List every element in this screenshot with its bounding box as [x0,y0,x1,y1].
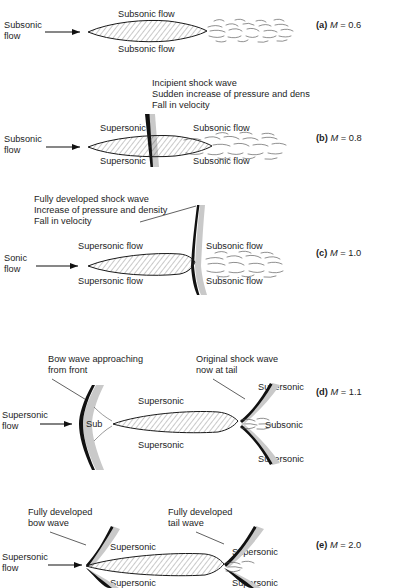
panel-a-upper-label: Subsonic flow [118,9,175,19]
panel-d-annotation-left-line2: from front [48,365,88,375]
panel-b-annotation-2: Sudden increase of pressure and density [152,89,310,99]
panel-d-annotation-right-line1: Original shock wave [196,354,278,364]
panel-d-mid-right-label: Subsonic [265,420,303,430]
panel-e-caption-value: = 2.0 [340,540,361,550]
panel-e-leader-left [50,532,86,545]
panel-c-aerofoil [88,254,195,276]
panel-e-lower-mid-label: Supersonic [110,578,156,588]
panel-a-inflow-line1: Subsonic [4,20,42,30]
panel-d-upper-right-label: Supersonic [258,382,304,392]
panel-b-annotation-1: Incipient shock wave [152,78,237,88]
panel-c-caption: (c) M = 1.0 [316,248,361,258]
panel-d-upper-mid-label: Supersonic [138,396,184,406]
panel-c-inflow-line2: flow [4,264,21,274]
panel-a-aerofoil [88,20,207,41]
panel-b-inflow-line2: flow [4,145,21,155]
panel-a-inflow-line2: flow [4,31,21,41]
panel-e-caption: (e) M = 2.0 [316,540,361,550]
panel-b-inflow-arrow [46,144,80,150]
panel-d-leader-right [213,379,245,399]
panel-a: Subsonic flow Subsonic flow Subsonic flo… [0,0,310,62]
shock-wave-development-figure: Subsonic flow Subsonic flow Subsonic flo… [0,0,397,588]
panel-c-annotation-3: Fall in velocity [34,216,92,226]
panel-b-annotation-3: Fall in velocity [152,100,210,110]
panel-b-caption: (b) M = 0.8 [316,133,362,143]
panel-d-inflow-arrow [40,421,72,427]
panel-d-lower-mid-label: Supersonic [138,440,184,450]
panel-e-upper-mid-label: Supersonic [110,542,156,552]
panel-c-upper-left-label: Supersonic flow [78,241,143,251]
panel-e-annotation-left-line1: Fully developed [28,507,92,517]
panel-e-inflow-line1: Supersonic [2,552,48,562]
panel-a-caption: (a) M = 0.6 [316,20,361,30]
panel-d-aerofoil [113,412,238,433]
panel-b-caption-symbol: M [330,133,338,143]
panel-a-caption-letter: (a) [316,20,327,30]
panel-a-inflow-arrow [45,29,80,35]
panel-a-wake [208,19,293,42]
panel-d-nose-pocket-label: Sub [86,419,102,429]
panel-e-annotation-left-line2: bow wave [28,518,69,528]
panel-c-caption-letter: (c) [316,248,327,258]
panel-c-annotation-2: Increase of pressure and density [34,205,168,215]
panel-c-fully-developed-shock-wave [191,205,207,295]
panel-e-annotation-right-line2: tail wave [168,518,204,528]
panel-b: Incipient shock wave Sudden increase of … [0,72,310,167]
panel-e-aerofoil [86,554,224,576]
panel-e-annotation-right-line1: Fully developed [168,507,232,517]
panel-d-caption-letter: (d) [316,387,328,397]
panel-c-inflow-line1: Sonic [4,253,27,263]
panel-c: Fully developed shock wave Increase of p… [0,185,310,295]
panel-d-caption-value: = 1.1 [341,387,362,397]
panel-b-inflow-line1: Subsonic [4,134,42,144]
panel-e-inflow-arrow [48,562,82,568]
panel-c-upper-right-label: Subsonic flow [206,241,263,251]
panel-c-caption-value: = 1.0 [340,248,361,258]
panel-b-lower-left-label: Supersonic [100,156,146,166]
panel-d-inflow-line2: flow [2,421,19,431]
panel-d: Bow wave approaching from front Original… [0,335,310,470]
panel-e-leader-right [196,532,224,544]
panel-e-caption-letter: (e) [316,540,327,550]
panel-e-inflow-line2: flow [2,563,19,573]
panel-a-lower-label: Subsonic flow [118,44,175,54]
panel-d-caption-symbol: M [330,387,338,397]
panel-d-annotation-right-line2: now at tail [196,365,237,375]
panel-b-lower-right-label: Subsonic flow [193,156,250,166]
panel-c-lower-right-label: Subsonic flow [206,276,263,286]
panel-a-caption-symbol: M [330,20,338,30]
panel-d-inflow-line1: Supersonic [2,410,48,420]
panel-c-wake [206,251,283,277]
panel-c-inflow-arrow [36,263,78,269]
panel-c-caption-symbol: M [330,248,338,258]
panel-c-annotation-1: Fully developed shock wave [34,194,149,204]
panel-d-caption: (d) M = 1.1 [316,387,362,397]
panel-b-caption-value: = 0.8 [341,133,362,143]
panel-e: Fully developed bow wave Fully developed… [0,488,310,588]
panel-c-lower-left-label: Supersonic flow [78,276,143,286]
panel-d-annotation-left-line1: Bow wave approaching [48,354,143,364]
panel-e-caption-symbol: M [330,540,338,550]
panel-d-leader-left [52,379,88,401]
panel-a-caption-value: = 0.6 [340,20,361,30]
panel-b-upper-right-label: Subsonic flow [193,123,250,133]
panel-b-caption-letter: (b) [316,133,328,143]
panel-b-upper-left-label: Supersonic [100,123,146,133]
